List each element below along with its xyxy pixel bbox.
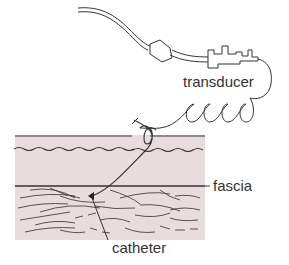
catheter-diagram [0, 0, 289, 265]
fascia-label: fascia [213, 178, 252, 193]
coiled-cable [140, 98, 253, 128]
transducer-label: transducer [183, 74, 254, 89]
catheter-label: catheter [112, 240, 166, 255]
pressure-tubing [78, 8, 210, 62]
transducer-icon [208, 46, 258, 68]
